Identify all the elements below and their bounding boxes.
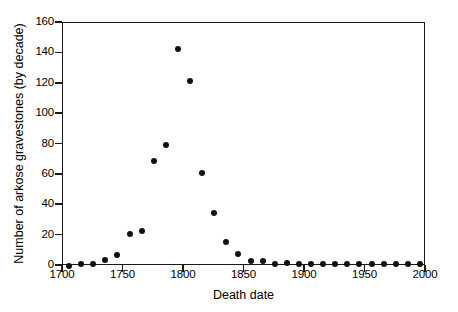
y-axis-tick-mark [55, 21, 62, 23]
data-point [308, 261, 314, 267]
data-point [151, 158, 157, 164]
data-point [284, 260, 290, 266]
x-axis-tick-label: 1700 [32, 269, 92, 281]
data-point [78, 261, 84, 267]
data-point [235, 251, 241, 257]
x-axis-tick-label: 1850 [214, 269, 274, 281]
data-point [248, 258, 254, 264]
x-axis-tick-label: 1800 [153, 269, 213, 281]
y-axis-tick-mark [55, 234, 62, 236]
y-axis-tick-mark [55, 143, 62, 145]
x-axis-tick-label: 1950 [335, 269, 395, 281]
data-point [344, 261, 350, 267]
data-point [211, 210, 217, 216]
data-point [223, 239, 229, 245]
x-axis-tick-label: 2000 [395, 269, 455, 281]
y-axis-tick-mark [55, 82, 62, 84]
plot-frame [62, 22, 425, 265]
data-point [356, 261, 362, 267]
x-axis-tick-label: 1750 [93, 269, 153, 281]
data-point [320, 261, 326, 267]
data-point [393, 261, 399, 267]
data-point [260, 258, 266, 264]
data-point [175, 46, 181, 52]
y-axis-title: Number of arkose gravestones (by decade) [12, 22, 28, 265]
data-point [332, 261, 338, 267]
data-point [66, 263, 72, 269]
data-point [369, 261, 375, 267]
data-point [296, 261, 302, 267]
data-point [417, 261, 423, 267]
scatter-chart-figure: 020406080100120140160 170017501800185019… [0, 0, 458, 312]
data-point [187, 78, 193, 84]
data-point [139, 228, 145, 234]
data-point [102, 257, 108, 263]
data-point [90, 261, 96, 267]
data-point [163, 142, 169, 148]
plot-area [63, 23, 424, 264]
data-point [405, 261, 411, 267]
data-point [199, 170, 205, 176]
y-axis-tick-mark [55, 203, 62, 205]
y-axis-tick-mark [55, 52, 62, 54]
data-point [272, 261, 278, 267]
y-axis-tick-mark [55, 173, 62, 175]
x-axis-tick-label: 1900 [274, 269, 334, 281]
data-point [381, 261, 387, 267]
x-axis-title: Death date [62, 288, 425, 302]
data-point [127, 231, 133, 237]
data-point [114, 252, 120, 258]
y-axis-tick-mark [55, 112, 62, 114]
